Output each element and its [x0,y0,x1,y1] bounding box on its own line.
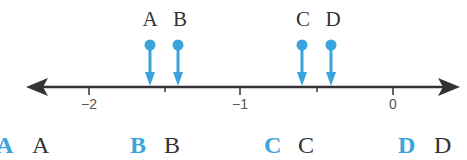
key-dark-d: D [434,133,451,157]
key-dark-c: C [298,133,314,157]
tick-label-0: 0 [389,97,397,111]
down-arrow-icon [326,72,336,86]
key-blue-b: B [130,133,146,157]
key-dark-b: B [164,133,180,157]
tick-label-neg1: −1 [232,97,248,111]
number-line-diagram: −2 −1 0 A B C D A A B B C C D D [0,0,467,160]
key-blue-d: D [398,133,415,157]
point-marker-a [145,40,156,87]
point-label-c: C [296,9,310,30]
key-dark-a: A [32,133,49,157]
point-label-a: A [142,9,157,30]
point-marker-c [297,40,308,87]
point-label-b: B [173,9,187,30]
key-blue-a: A [0,133,13,157]
number-line [0,0,467,160]
point-marker-d [326,40,337,87]
down-arrow-icon [297,72,307,86]
point-label-d: D [325,9,340,30]
key-blue-c: C [264,133,281,157]
tick-label-neg2: −2 [81,97,97,111]
point-marker-b [173,40,184,87]
down-arrow-icon [145,72,155,86]
points [145,40,337,87]
down-arrow-icon [173,72,183,86]
